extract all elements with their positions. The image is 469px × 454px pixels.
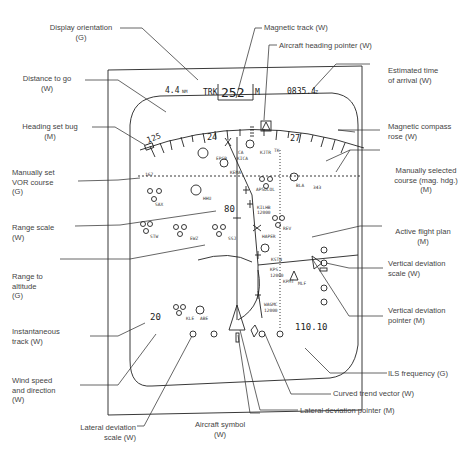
label-aircraft-symbol: Aircraft symbol (W)	[186, 420, 254, 439]
eta-value: 0835.4	[287, 87, 316, 96]
label-curved-trend-vector: Curved trend vector (W)	[333, 389, 443, 399]
svg-text:STW: STW	[150, 234, 158, 239]
label-ils-frequency: ILS frequency (G)	[388, 369, 468, 379]
svg-text:SSJ: SSJ	[228, 236, 236, 241]
svg-text:MLF: MLF	[298, 281, 306, 286]
label-manually-selected-course: Manually selected course (mag. hdg.) (M)	[384, 166, 468, 195]
compass-rose-arc	[140, 129, 364, 150]
label-aircraft-heading-pointer: Aircraft heading pointer (W)	[279, 41, 409, 51]
compass-ticks	[150, 129, 345, 157]
ils-frequency-value: 110.10	[295, 322, 328, 332]
wind-speed-value: 20	[150, 312, 161, 322]
vortac-symbols	[141, 177, 285, 316]
svg-text:KEMA: KEMA	[230, 170, 241, 175]
svg-text:12000: 12000	[264, 308, 278, 313]
svg-text:HHU: HHU	[203, 196, 211, 201]
distance-to-go-value: 4.4	[165, 86, 180, 95]
svg-text:KPMT: KPMT	[283, 279, 294, 284]
svg-text:AP5DCOL: AP5DCOL	[256, 187, 275, 192]
label-magnetic-track: Magnetic track (W)	[264, 23, 374, 33]
svg-text:12000: 12000	[257, 210, 271, 215]
label-distance-to-go: Distance to go (W)	[8, 74, 86, 93]
ehsi-diagram: 4.4 NM TRK 252 M 0835.4 Z 125 24 27 80 2…	[0, 0, 469, 454]
label-manually-set-vor-course: Manually set VOR course (G)	[12, 168, 78, 197]
svg-text:EPSB: EPSB	[216, 156, 227, 161]
label-instantaneous-track: Instantaneous track (W)	[12, 327, 90, 346]
svg-text:KLE: KLE	[186, 316, 194, 321]
heading-bug-value: 125	[145, 131, 162, 144]
svg-text:REV: REV	[283, 226, 291, 231]
svg-text:KSTN: KSTN	[271, 257, 282, 262]
svg-text:12000: 12000	[270, 273, 284, 278]
svg-text:ABE: ABE	[200, 316, 208, 321]
magnetic-track-value: 252	[221, 85, 244, 100]
svg-text:343: 343	[313, 185, 321, 190]
svg-text:TK: TK	[274, 148, 280, 153]
svg-text:M: M	[255, 88, 260, 97]
label-estimated-time-of-arrival: Estimated time of arrival (W)	[388, 66, 466, 85]
svg-text:HAPER: HAPER	[262, 234, 276, 239]
svg-text:SAX: SAX	[155, 202, 163, 207]
svg-text:KICA: KICA	[237, 156, 248, 161]
label-range-to-altitude: Range to altitude (G)	[12, 272, 60, 301]
svg-text:Z: Z	[315, 89, 318, 95]
svg-text:CA: CA	[238, 150, 244, 155]
svg-text:BLA: BLA	[296, 183, 304, 188]
svg-text:WAGMC: WAGMC	[264, 302, 278, 307]
track-prefix: TRK	[203, 88, 218, 97]
label-wind-speed-direction: Wind speed and direction (W)	[12, 376, 82, 405]
range-scale-value: 80	[224, 204, 235, 214]
label-magnetic-compass-rose: Magnetic compass rose (W)	[388, 122, 468, 141]
label-display-orientation: Display orientation (G)	[40, 23, 122, 42]
svg-text:NM: NM	[182, 89, 188, 94]
compass-label-27: 27	[290, 133, 300, 143]
compass-label-24: 24	[207, 132, 217, 142]
label-heading-set-bug: Heading set bug (M)	[8, 122, 92, 141]
label-vertical-deviation-scale: Vertical deviation scale (W)	[388, 259, 468, 278]
label-range-scale: Range scale (W)	[12, 223, 74, 242]
active-flight-plan	[228, 142, 262, 318]
svg-text:167: 167	[145, 172, 153, 177]
label-lateral-deviation-scale: Lateral deviation scale (W)	[62, 423, 136, 442]
svg-text:KJTR: KJTR	[260, 150, 271, 155]
svg-text:KPS: KPS	[270, 267, 278, 272]
label-vertical-deviation-pointer: Vertical deviation pointer (M)	[388, 306, 468, 325]
label-lateral-deviation-pointer: Lateral deviation pointer (M)	[300, 406, 430, 416]
svg-text:EWZ: EWZ	[190, 236, 198, 241]
label-active-flight-plan: Active flight plan (M)	[384, 227, 462, 246]
vertical-deviation-pointer	[312, 256, 322, 269]
range-arc	[198, 255, 252, 262]
lateral-deviation-pointer	[251, 325, 258, 337]
